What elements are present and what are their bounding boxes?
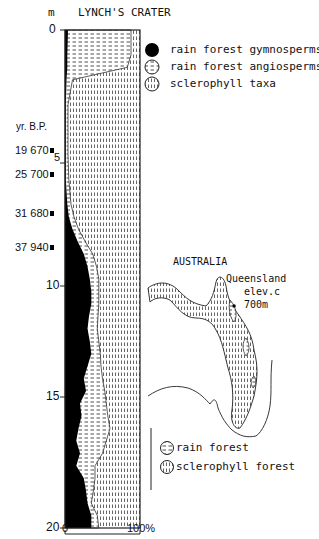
x-tick-0: 0 <box>62 522 68 534</box>
y-tick-0: 0 <box>49 22 56 36</box>
legend-label-gymno: rain forest gymnosperms <box>170 43 319 56</box>
map-legend-sclerophyll-icon <box>161 461 174 474</box>
y-tick-15: 15 <box>46 389 59 403</box>
legend-label-angio: rain forest angiosperms <box>170 60 319 73</box>
map-title: AUSTRALIA <box>173 256 227 267</box>
map-elev-label: elev.c <box>244 286 280 297</box>
map-legend-rainforest: rain forest <box>176 441 249 454</box>
age-markers <box>50 148 54 250</box>
legend-label-scler: sclerophyll taxa <box>170 77 276 90</box>
map-site-label: Queensland <box>226 273 286 284</box>
site-marker-icon <box>232 304 236 308</box>
x-tick-100: 100% <box>127 522 155 534</box>
legend-gymno-icon <box>145 43 159 57</box>
y-tick-5: 5 <box>54 151 60 163</box>
map-legend-rainforest-icon <box>161 442 174 455</box>
legend-angio-icon <box>145 60 159 74</box>
age-label-2: 25 700 <box>15 168 49 180</box>
y-tick-20: 20 <box>46 520 59 534</box>
age-label-3: 31 680 <box>15 207 49 219</box>
legend-scler-icon <box>145 77 159 91</box>
y-axis-unit: m <box>48 6 55 19</box>
age-label-4: 37 940 <box>15 241 49 253</box>
y-tick-10: 10 <box>46 278 59 292</box>
chart-title: LYNCH'S CRATER <box>78 6 171 19</box>
map-legend-sclerophyll: sclerophyll forest <box>176 460 295 473</box>
map-elev-value: 700m <box>244 299 268 310</box>
age-label-1: 19 670 <box>15 144 49 156</box>
depth-ticks <box>60 30 65 528</box>
age-axis-label: yr. B.P. <box>16 121 47 132</box>
